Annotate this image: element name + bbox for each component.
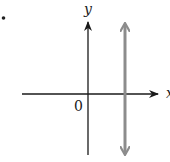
x-axis-label: x: [166, 85, 170, 101]
y-axis-label: y: [83, 1, 93, 17]
bullet-dot: [2, 16, 6, 20]
origin-label: 0: [74, 98, 83, 114]
coordinate-diagram: y 0 x: [0, 0, 170, 162]
